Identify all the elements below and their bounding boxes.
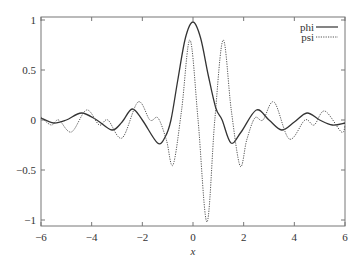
- plot-border: [41, 17, 345, 226]
- x-tick-label: −6: [35, 231, 47, 243]
- x-tick-label: 0: [190, 231, 196, 243]
- y-tick-label: −0.5: [16, 164, 36, 176]
- y-tick-label: 0.5: [22, 64, 36, 76]
- series-layer: [41, 22, 345, 222]
- series-line-psi: [41, 40, 345, 222]
- x-axis-label: x: [190, 245, 196, 257]
- legend-label-psi: psi: [301, 31, 314, 43]
- x-tick-label: −4: [86, 231, 98, 243]
- y-tick-label: 1: [31, 14, 37, 26]
- y-tick-label: −1: [24, 214, 36, 226]
- legend: phi psi: [300, 21, 338, 43]
- series-line-phi: [41, 22, 345, 144]
- x-tick-label: −2: [136, 231, 148, 243]
- plot-frame: [41, 17, 345, 226]
- x-tick-label: 2: [241, 231, 247, 243]
- y-tick-label: 0: [31, 114, 37, 126]
- chart: −6−4−20246 10.50−0.5−1 x phi psi: [0, 0, 363, 267]
- x-tick-label: 4: [292, 231, 298, 243]
- x-tick-label: 6: [342, 231, 348, 243]
- x-axis: −6−4−20246: [35, 17, 348, 243]
